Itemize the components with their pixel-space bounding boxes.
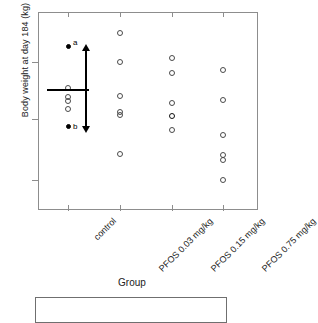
x-category-label-pfos-075: PFOS 0.75 mg/kg bbox=[260, 216, 318, 274]
range-arrow-shaft bbox=[85, 50, 87, 127]
data-point bbox=[220, 97, 226, 103]
data-point bbox=[117, 30, 123, 36]
data-point bbox=[169, 70, 175, 76]
caption-box bbox=[35, 297, 227, 323]
x-category-label-control: control bbox=[92, 216, 118, 242]
data-point bbox=[220, 157, 226, 163]
x-tick-mark-top-pfos-015 bbox=[172, 12, 173, 17]
range-arrow-head-up bbox=[82, 44, 90, 51]
data-point-label-b: b bbox=[73, 122, 77, 131]
x-tick-mark-control bbox=[68, 205, 69, 211]
x-axis-title: Group bbox=[0, 277, 264, 288]
x-category-label-pfos-015: PFOS 0.15 mg/kg bbox=[209, 216, 267, 274]
x-tick-mark-top-control bbox=[68, 12, 69, 17]
x-tick-mark-pfos-075 bbox=[223, 205, 224, 211]
x-tick-mark-pfos-015 bbox=[172, 205, 173, 211]
y-axis-title: Body weight at day 184 (kg) bbox=[20, 0, 30, 145]
range-arrow-head-down bbox=[82, 126, 90, 133]
data-point bbox=[65, 98, 71, 104]
x-tick-mark-top-pfos-003 bbox=[120, 12, 121, 17]
data-point bbox=[66, 124, 71, 129]
data-point-label-a: a bbox=[73, 38, 77, 47]
data-point bbox=[117, 59, 123, 65]
reference-line bbox=[47, 89, 89, 91]
data-point bbox=[66, 44, 71, 49]
x-category-label-pfos-003: PFOS 0.03 mg/kg bbox=[157, 216, 215, 274]
data-point bbox=[220, 177, 226, 183]
data-point bbox=[117, 151, 123, 157]
x-tick-mark-pfos-003 bbox=[120, 205, 121, 211]
x-tick-mark-top-pfos-075 bbox=[223, 12, 224, 17]
